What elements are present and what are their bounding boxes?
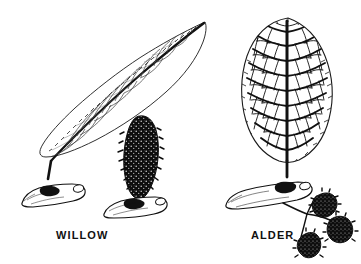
alder-label: ALDER [251,230,294,241]
plate-artwork [0,0,361,264]
willow-label: WILLOW [56,230,108,241]
botanical-plate: WILLOW ALDER [0,0,361,264]
